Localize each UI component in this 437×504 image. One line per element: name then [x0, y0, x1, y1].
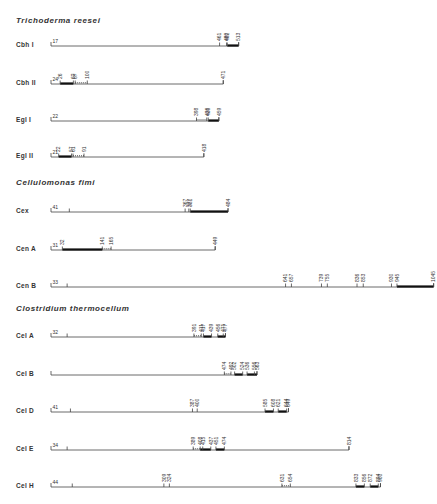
signal-peptide-label: 44 [53, 479, 59, 485]
protein-track: 44309324631654833856872894900 [0, 0, 437, 504]
residue-position-label: 872 [367, 473, 373, 482]
residue-position-label: 833 [353, 473, 359, 482]
residue-position-label: 631 [279, 473, 285, 482]
residue-position-label: 324 [166, 473, 172, 482]
residue-position-label: 654 [287, 473, 293, 482]
binding-domain-segment [356, 485, 364, 487]
binding-domain-segment [370, 485, 378, 487]
residue-position-label: 900 [377, 473, 383, 482]
